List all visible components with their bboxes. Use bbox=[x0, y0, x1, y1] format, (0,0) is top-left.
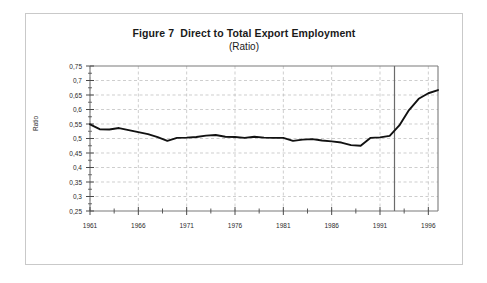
y-axis-tick-label: 0,5 bbox=[56, 135, 82, 142]
y-axis-tick-label: 0,45 bbox=[56, 150, 82, 157]
y-axis-tick-label: 0,65 bbox=[56, 92, 82, 99]
y-axis-tick-label: 0,35 bbox=[56, 179, 82, 186]
x-axis-tick-label: 1996 bbox=[411, 222, 445, 229]
x-axis-tick-label: 1961 bbox=[73, 222, 107, 229]
x-axis-tick-label: 1966 bbox=[121, 222, 155, 229]
y-axis-title: Ratio bbox=[32, 116, 39, 131]
y-axis-tick-label: 0,25 bbox=[56, 208, 82, 215]
x-axis-tick-label: 1986 bbox=[315, 222, 349, 229]
figure-root: Figure 7 Direct to Total Export Employme… bbox=[0, 0, 487, 283]
y-axis-tick-label: 0,3 bbox=[56, 193, 82, 200]
y-axis-tick-label: 0,75 bbox=[56, 63, 82, 70]
plot-area: Ratio 0,750,70,650,60,550,50,450,40,350,… bbox=[0, 0, 487, 283]
y-axis-tick-label: 0,4 bbox=[56, 164, 82, 171]
y-axis-tick-label: 0,7 bbox=[56, 77, 82, 84]
x-axis-tick-label: 1976 bbox=[218, 222, 252, 229]
y-axis-tick-label: 0,55 bbox=[56, 121, 82, 128]
data-series bbox=[90, 90, 438, 146]
x-axis-tick-label: 1981 bbox=[266, 222, 300, 229]
x-axis-tick-label: 1971 bbox=[170, 222, 204, 229]
y-axis-ticks bbox=[86, 66, 94, 211]
y-axis-tick-label: 0,6 bbox=[56, 106, 82, 113]
x-axis-tick-label: 1991 bbox=[363, 222, 397, 229]
